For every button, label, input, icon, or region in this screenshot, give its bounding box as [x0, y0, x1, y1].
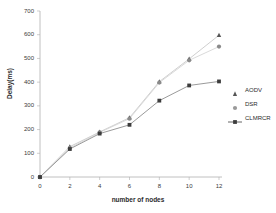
x-tick-label: 4: [92, 183, 108, 189]
y-tick-label: 500: [14, 55, 34, 61]
chart-legend: AODV DSR CLMRCR: [228, 83, 276, 125]
triangle-marker-icon: [228, 85, 242, 95]
y-tick-label: 200: [14, 126, 34, 132]
x-tick-label: 6: [122, 183, 138, 189]
legend-label-aodv: AODV: [242, 87, 262, 93]
x-tick-label: 10: [181, 183, 197, 189]
y-tick-label: 600: [14, 31, 34, 37]
y-axis-title: Delay(ms): [6, 59, 13, 109]
y-tick-label: 100: [14, 150, 34, 156]
square-line-marker-icon: [228, 113, 242, 123]
circle-marker-icon: [228, 99, 242, 109]
y-tick-label: 400: [14, 79, 34, 85]
legend-label-dsr: DSR: [242, 101, 258, 107]
delay-vs-nodes-chart: 0100200300400500600700 024681012 Delay(m…: [0, 0, 276, 213]
legend-item-clmrcr: CLMRCR: [228, 111, 276, 125]
y-tick-label: 700: [14, 8, 34, 14]
x-axis-title: number of nodes: [0, 196, 276, 203]
legend-label-clmrcr: CLMRCR: [242, 115, 271, 121]
x-tick-label: 12: [211, 183, 227, 189]
legend-item-dsr: DSR: [228, 97, 276, 111]
x-tick-label: 0: [32, 183, 48, 189]
legend-item-aodv: AODV: [228, 83, 276, 97]
y-tick-label: 0: [14, 174, 34, 180]
x-tick-label: 8: [151, 183, 167, 189]
x-tick-label: 2: [62, 183, 78, 189]
y-tick-label: 300: [14, 102, 34, 108]
